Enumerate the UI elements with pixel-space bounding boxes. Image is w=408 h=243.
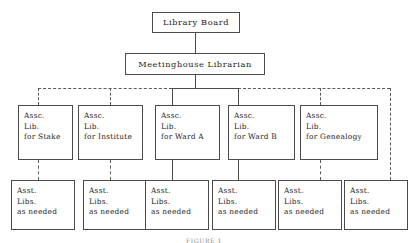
connector-assc1-to-asst1 [38,160,39,180]
node-assc-lib-genealogy-line3: for Genealogy [306,132,377,143]
node-assc-lib-stake-line2: Lib. [24,122,72,133]
node-assc-lib-institute[interactable]: Assc. Lib. for Institute [78,105,143,160]
bus-dashed-left [38,88,172,89]
node-asst-libs-4-line3: as needed [218,207,275,218]
node-asst-libs-3-line2: Libs. [151,197,208,208]
node-asst-libs-2-line2: Libs. [89,197,146,208]
bus-solid-center [172,88,238,89]
node-assc-lib-ward-a-line1: Assc. [161,111,219,122]
node-assc-lib-genealogy[interactable]: Assc. Lib. for Genealogy [300,105,378,160]
connector-bus-to-assc-4 [238,88,239,105]
node-assc-lib-institute-line1: Assc. [84,111,142,122]
node-asst-libs-4-line1: Asst. [218,186,275,197]
node-assc-lib-stake-line3: for Stake [24,132,72,143]
node-library-board[interactable]: Library Board [152,12,240,33]
node-assc-lib-ward-a-line3: for Ward A [161,132,219,143]
node-asst-libs-2[interactable]: Asst. Libs. as needed [83,180,147,230]
node-asst-libs-3-line1: Asst. [151,186,208,197]
node-asst-libs-5[interactable]: Asst. Libs. as needed [278,180,342,230]
node-asst-libs-6[interactable]: Asst. Libs. as needed [344,180,408,230]
node-asst-libs-5-line1: Asst. [284,186,341,197]
node-asst-libs-6-line3: as needed [350,207,407,218]
connector-board-to-librarian [195,33,196,53]
node-assc-lib-ward-b-line1: Assc. [234,111,294,122]
org-chart: Library Board Meetinghouse Librarian Ass… [0,0,408,243]
connector-assc4-to-asst4 [238,160,239,180]
node-assc-lib-ward-a-line2: Lib. [161,122,219,133]
bus-dashed-right [238,88,390,89]
node-assc-lib-genealogy-line1: Assc. [306,111,377,122]
node-asst-libs-5-line3: as needed [284,207,341,218]
connector-assc3-to-asst3 [172,160,173,180]
node-asst-libs-3-line3: as needed [151,207,208,218]
connector-assc5-to-asst5 [320,160,321,180]
node-asst-libs-4[interactable]: Asst. Libs. as needed [212,180,276,230]
node-assc-lib-ward-b-line3: for Ward B [234,132,294,143]
figure-caption: FIGURE 1 [0,237,408,243]
node-assc-lib-ward-a[interactable]: Assc. Lib. for Ward A [155,105,220,160]
node-asst-libs-2-line1: Asst. [89,186,146,197]
connector-assc2-to-asst2 [110,160,111,180]
connector-librarian-to-bus [195,75,196,88]
node-meetinghouse-librarian-label: Meetinghouse Librarian [138,59,252,70]
node-meetinghouse-librarian[interactable]: Meetinghouse Librarian [125,53,265,75]
node-assc-lib-institute-line2: Lib. [84,122,142,133]
node-asst-libs-5-line2: Libs. [284,197,341,208]
node-assc-lib-institute-line3: for Institute [84,132,142,143]
node-assc-lib-genealogy-line2: Lib. [306,122,377,133]
node-asst-libs-4-line2: Libs. [218,197,275,208]
connector-bus-to-assc-2 [110,88,111,105]
connector-bus-to-assc-3 [172,88,173,105]
node-asst-libs-3[interactable]: Asst. Libs. as needed [145,180,209,230]
node-asst-libs-1-line1: Asst. [17,186,74,197]
node-assc-lib-stake-line1: Assc. [24,111,72,122]
connector-bus-to-assc-5 [320,88,321,105]
connector-bus-to-assc-1 [38,88,39,105]
node-asst-libs-1-line3: as needed [17,207,74,218]
node-library-board-label: Library Board [163,17,229,28]
node-asst-libs-2-line3: as needed [89,207,146,218]
node-asst-libs-6-line2: Libs. [350,197,407,208]
connector-bus-to-asst-6 [390,88,391,180]
node-assc-lib-ward-b-line2: Lib. [234,122,294,133]
node-asst-libs-1-line2: Libs. [17,197,74,208]
node-asst-libs-1[interactable]: Asst. Libs. as needed [11,180,75,230]
node-assc-lib-stake[interactable]: Assc. Lib. for Stake [18,105,73,160]
node-assc-lib-ward-b[interactable]: Assc. Lib. for Ward B [228,105,295,160]
node-asst-libs-6-line1: Asst. [350,186,407,197]
